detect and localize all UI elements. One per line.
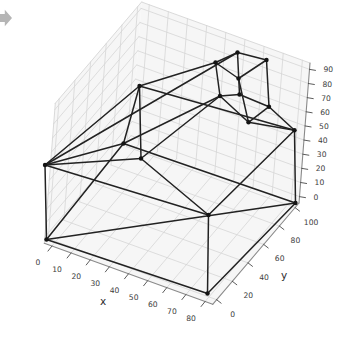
vertex-G	[121, 141, 125, 145]
svg-text:0: 0	[36, 258, 41, 267]
vertex-c1	[235, 50, 239, 54]
svg-text:0: 0	[230, 310, 235, 319]
svg-text:40: 40	[318, 136, 328, 145]
vertex-c7	[267, 105, 271, 109]
svg-text:40: 40	[110, 286, 120, 295]
vertex-c6	[246, 120, 250, 124]
vertex-C	[293, 201, 297, 205]
svg-text:10: 10	[52, 265, 62, 274]
vertex-H	[206, 213, 210, 217]
x-axis-label: x	[100, 295, 106, 307]
vertex-I	[137, 84, 141, 88]
svg-text:90: 90	[324, 65, 334, 74]
svg-text:80: 80	[291, 236, 301, 245]
svg-text:50: 50	[319, 122, 329, 131]
vertex-c8	[237, 92, 241, 96]
vertex-c5	[218, 94, 222, 98]
edge-C-E	[295, 130, 296, 203]
svg-text:60: 60	[320, 108, 330, 117]
mpl-3d-figure: 0102030405060708002040608010001020304050…	[0, 0, 353, 340]
svg-text:30: 30	[317, 150, 327, 159]
vertex-c4	[236, 76, 240, 80]
vertex-D	[43, 163, 47, 167]
svg-text:30: 30	[91, 279, 101, 288]
svg-text:70: 70	[167, 307, 177, 316]
svg-text:0: 0	[314, 193, 319, 202]
svg-text:60: 60	[275, 254, 285, 263]
vertex-c3	[264, 58, 268, 62]
vertex-F	[139, 156, 143, 160]
svg-text:60: 60	[148, 300, 158, 309]
svg-text:80: 80	[186, 314, 196, 323]
vertex-c2	[213, 60, 217, 64]
svg-text:50: 50	[129, 293, 139, 302]
edge-B-H	[208, 215, 209, 294]
svg-text:20: 20	[316, 164, 326, 173]
svg-text:10: 10	[315, 178, 325, 187]
vertex-B	[205, 291, 209, 295]
svg-text:80: 80	[322, 80, 332, 89]
vertex-A	[44, 237, 48, 241]
svg-text:20: 20	[243, 291, 253, 300]
vertex-E	[292, 128, 296, 132]
svg-text:40: 40	[259, 273, 269, 282]
svg-text:70: 70	[321, 94, 331, 103]
svg-text:20: 20	[71, 272, 81, 281]
svg-text:100: 100	[304, 218, 319, 227]
y-axis-label: y	[281, 269, 287, 281]
screenshot-root: 0102030405060708002040608010001020304050…	[0, 0, 353, 340]
